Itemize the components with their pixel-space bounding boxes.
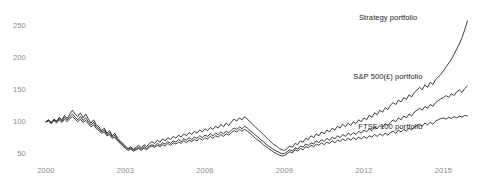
x-tick-2000: 2000: [26, 166, 66, 175]
x-tick-2003: 2003: [106, 166, 146, 175]
y-tick-150: 150: [2, 85, 26, 94]
y-tick-250: 250: [2, 21, 26, 30]
line-chart-portfolio-performance: 50100150200250 200020032006200920122015 …: [0, 0, 484, 186]
x-tick-2009: 2009: [265, 166, 305, 175]
x-tick-2006: 2006: [185, 166, 225, 175]
series-layer: [46, 21, 467, 156]
y-tick-50: 50: [2, 149, 26, 158]
sp500-portfolio-label: S&P 500(£) portfolio: [353, 72, 422, 81]
y-tick-200: 200: [2, 53, 26, 62]
x-tick-2012: 2012: [344, 166, 384, 175]
series-line-s-p-500-portfolio: [46, 86, 467, 154]
ftse100-portfolio-label: FTSE 100 portfolio: [358, 122, 422, 131]
series-line-strategy-portfolio: [46, 21, 467, 151]
x-tick-2015: 2015: [424, 166, 464, 175]
strategy-portfolio-label: Strategy portfolio: [359, 13, 417, 22]
y-tick-100: 100: [2, 117, 26, 126]
chart-plot-area: [0, 0, 484, 186]
